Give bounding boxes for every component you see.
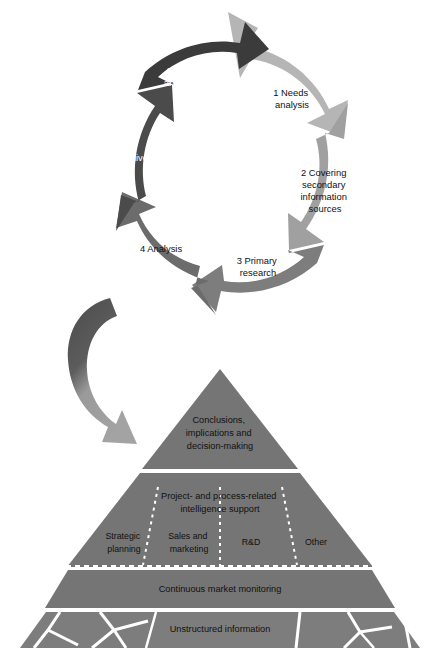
- pyramid-layer-top-label: Conclusions, implications and decision-m…: [186, 415, 254, 451]
- pyramid-group: Conclusions, implications and decision-m…: [20, 369, 420, 648]
- connector-arrow: [68, 298, 137, 444]
- pyramid-layer-monitoring[interactable]: Continuous market monitoring: [45, 570, 395, 608]
- cycle-segment-3[interactable]: 3 Primary research: [192, 245, 324, 312]
- cycle-segment-5-label: 5 Delivery: [114, 152, 156, 163]
- figure-root: 1 Needs analysis 2 Covering secondary in…: [0, 0, 445, 659]
- pyramid-layer-unstructured[interactable]: Unstructured information: [20, 612, 420, 648]
- pyramid-column-rd-label[interactable]: R&D: [242, 537, 261, 547]
- cycle-segment-3-label: 3 Primary research: [237, 255, 280, 278]
- pyramid-layer-top[interactable]: Conclusions, implications and decision-m…: [142, 369, 298, 469]
- curved-down-arrow-shape: [68, 298, 137, 444]
- pyramid-layer-unstructured-label: Unstructured information: [170, 624, 271, 634]
- process-diagram: 1 Needs analysis 2 Covering secondary in…: [0, 0, 445, 659]
- cycle-segment-4-label: 4 Analysis: [140, 243, 183, 254]
- cycle-segment-2-label: 2 Covering secondary information sources: [301, 167, 350, 214]
- cycle-segment-6-label: 6 Utilization and feedback: [164, 65, 221, 88]
- cycle-segment-4[interactable]: 4 Analysis: [116, 192, 216, 315]
- cycle-segment-1-label: 1 Needs analysis: [273, 87, 311, 110]
- pyramid-column-other-label[interactable]: Other: [305, 537, 327, 547]
- pyramid-layer-middle[interactable]: Project- and process-related intelligenc…: [66, 473, 374, 567]
- cycle-segment-6[interactable]: 6 Utilization and feedback: [138, 22, 269, 90]
- cycle-group: 1 Needs analysis 2 Covering secondary in…: [114, 12, 349, 315]
- pyramid-layer-monitoring-label: Continuous market monitoring: [159, 584, 282, 594]
